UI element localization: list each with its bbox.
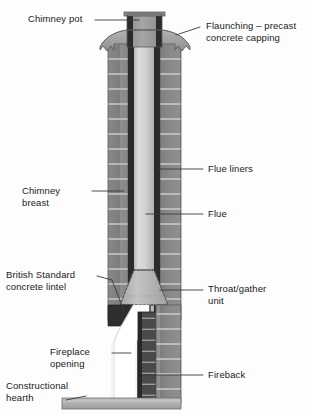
chimney-breast-right [160,44,181,320]
label-fireback: Fireback [208,369,245,381]
fireback [138,312,156,400]
constructional-hearth [62,398,181,409]
label-throat-gather-unit: Throat/gather unit [208,283,266,306]
leader-flaunching [176,27,200,35]
diagram-canvas: Chimney pot Flaunching – precast concret… [0,0,311,416]
label-fireplace-opening: Fireplace opening [50,346,90,369]
chimney-breast-left [108,44,128,320]
label-chimney-breast: Chimney breast [22,185,60,208]
chimney-cross-section-svg [0,0,311,416]
label-flue: Flue [208,208,227,220]
label-constructional-hearth: Constructional hearth [6,380,68,403]
label-chimney-pot: Chimney pot [28,13,82,25]
label-british-standard-lintel: British Standard concrete lintel [6,269,75,292]
chimney-pot [124,12,165,47]
chimney-breast-lower-right [156,305,181,403]
label-flaunching: Flaunching – precast concrete capping [206,20,296,43]
label-flue-liners: Flue liners [208,163,253,175]
